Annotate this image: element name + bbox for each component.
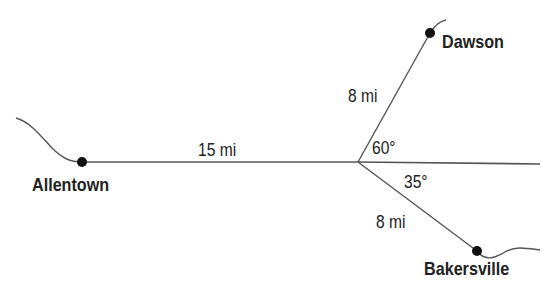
distance-allentown-junction: 15 mi [198,139,236,161]
angle-bakersville: 35° [404,171,428,193]
angle-dawson: 60° [372,137,396,159]
road-curve-allentown [16,118,82,162]
allentown-label: Allentown [32,174,109,196]
distance-junction-dawson: 8 mi [348,85,377,107]
road-curve-bakersville [477,248,540,258]
bakersville-dot [472,246,482,256]
distance-junction-bakersville: 8 mi [376,211,405,233]
dawson-dot [425,28,435,38]
allentown-dot [77,157,87,167]
reference-horizontal-line [358,162,540,164]
road-map-diagram: Allentown Dawson Bakersville 15 mi 8 mi … [0,0,551,299]
dawson-label: Dawson [442,31,504,53]
bakersville-label: Bakersville [424,258,509,280]
